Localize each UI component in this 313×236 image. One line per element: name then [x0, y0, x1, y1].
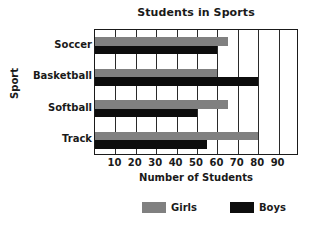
chart-title: Students in Sports: [94, 6, 298, 19]
bar-track-boys: [95, 140, 207, 149]
chart-figure: Students in Sports Sport SoccerBasketbal…: [0, 0, 313, 236]
legend-label-girls: Girls: [171, 202, 197, 213]
legend-swatch-boys: [230, 202, 254, 213]
y-axis-label-soccer: Soccer: [14, 39, 92, 50]
y-axis-label-softball: Softball: [14, 102, 92, 113]
bar-softball-girls: [95, 100, 228, 109]
legend-entry-boys[interactable]: Boys: [230, 202, 286, 213]
legend-label-boys: Boys: [259, 202, 286, 213]
x-tick-label-90: 90: [266, 157, 290, 168]
legend-entry-girls[interactable]: Girls: [142, 202, 197, 213]
y-axis-label-track: Track: [14, 133, 92, 144]
bar-softball-boys: [95, 109, 197, 118]
y-axis-category-labels: SoccerBasketballSoftballTrack: [10, 29, 92, 155]
chart-legend: GirlsBoys: [94, 202, 298, 220]
x-axis-tick-labels: 102030405060708090: [94, 157, 298, 171]
x-axis-title: Number of Students: [94, 172, 298, 183]
legend-swatch-girls: [142, 202, 166, 213]
plot-area: [94, 29, 298, 155]
bar-track-girls: [95, 132, 258, 141]
bar-soccer-girls: [95, 37, 228, 46]
bar-soccer-boys: [95, 46, 217, 55]
y-axis-label-basketball: Basketball: [14, 70, 92, 81]
bars-layer: [95, 30, 297, 154]
bar-basketball-boys: [95, 77, 258, 86]
bar-basketball-girls: [95, 69, 217, 78]
